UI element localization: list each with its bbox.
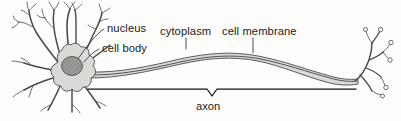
- neuron-diagram: nucleus cell body cytoplasm cell membran…: [0, 0, 401, 121]
- label-cell-body: cell body: [102, 42, 147, 54]
- axon: [88, 53, 358, 85]
- label-nucleus: nucleus: [107, 22, 147, 34]
- nucleus-shape: [62, 57, 83, 76]
- label-axon: axon: [196, 100, 220, 112]
- neuron-illustration: nucleus cell body cytoplasm cell membran…: [0, 0, 401, 121]
- axon-terminals: [355, 27, 393, 98]
- axon-brace: [88, 89, 356, 96]
- label-cell-membrane: cell membrane: [222, 25, 297, 37]
- label-cytoplasm: cytoplasm: [160, 25, 211, 37]
- cell-body-soma: [51, 43, 95, 91]
- axon-tube: [88, 53, 358, 85]
